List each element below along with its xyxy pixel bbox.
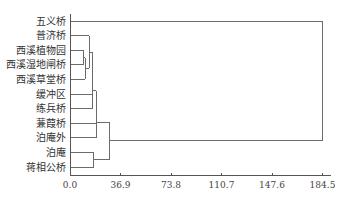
dendrogram-chart: 五义桥普济桥西溪植物园西溪湿地闸桥西溪草堂桥缓冲区练兵桥蒹葭桥泊庵外泊庵蒋相公桥… <box>0 0 343 197</box>
leaf-label: 西溪湿地闸桥 <box>6 58 66 70</box>
leaf-label: 西溪草堂桥 <box>16 74 66 85</box>
x-tick-label: 110.7 <box>209 180 235 190</box>
leaf-label: 练兵桥 <box>36 102 66 114</box>
leaf-label: 蒹葭桥 <box>36 117 66 129</box>
x-tick-label: 147.6 <box>259 180 285 190</box>
leaf-label: 缓冲区 <box>36 88 66 100</box>
leaf-label: 泊庵外 <box>36 131 66 143</box>
x-tick-label: 0.0 <box>63 180 78 190</box>
leaf-label: 普济桥 <box>36 29 66 41</box>
x-tick-label: 36.9 <box>110 180 130 190</box>
leaf-label: 泊庵 <box>46 146 66 158</box>
leaf-labels: 五义桥普济桥西溪植物园西溪湿地闸桥西溪草堂桥缓冲区练兵桥蒹葭桥泊庵外泊庵蒋相公桥 <box>6 16 66 173</box>
x-tick-label: 184.5 <box>310 180 336 190</box>
leaf-label: 五义桥 <box>36 16 66 27</box>
x-tick-label: 73.8 <box>161 180 181 190</box>
leaf-label: 西溪植物园 <box>16 44 66 56</box>
x-axis-ticks: 0.036.973.8110.7147.6184.5 <box>63 173 336 190</box>
dendrogram-links <box>70 21 323 167</box>
leaf-label: 蒋相公桥 <box>26 161 66 173</box>
